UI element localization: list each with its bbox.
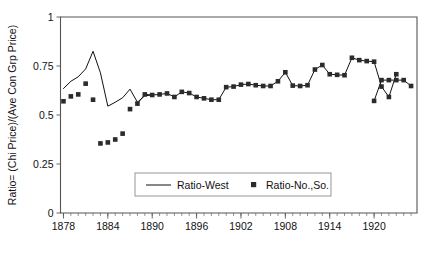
data-point-marker	[387, 78, 392, 83]
data-point-marker	[202, 96, 207, 101]
x-tick-label: 1884	[96, 220, 120, 232]
data-point-marker	[379, 84, 384, 89]
data-point-marker	[113, 137, 118, 142]
data-point-marker	[394, 78, 399, 83]
data-point-marker	[187, 91, 192, 96]
data-point-marker	[224, 85, 229, 90]
data-point-marker	[91, 97, 96, 102]
data-point-marker	[276, 79, 281, 84]
data-point-marker	[98, 141, 103, 146]
data-point-marker	[283, 70, 288, 75]
x-tick-label: 1878	[52, 220, 76, 232]
data-point-marker	[394, 72, 399, 77]
data-point-marker	[379, 78, 384, 83]
x-tick-label: 1902	[229, 220, 253, 232]
data-point-marker	[342, 73, 347, 78]
data-point-marker	[128, 107, 133, 112]
data-point-marker	[120, 131, 125, 136]
data-point-marker	[298, 84, 303, 89]
data-point-marker	[261, 84, 266, 89]
data-point-marker	[320, 63, 325, 68]
y-axis-title: Ratio= (Chi Price)/(Ave Con Grp Price)	[6, 25, 18, 205]
legend-label-ratio-west: Ratio-West	[177, 179, 229, 191]
legend-square-swatch	[251, 182, 256, 187]
data-point-marker	[401, 78, 406, 83]
data-point-marker	[372, 99, 377, 104]
data-point-marker	[231, 84, 236, 89]
y-tick-label: 0.25	[33, 158, 54, 170]
data-point-marker	[150, 93, 155, 98]
x-tick-label: 1914	[318, 220, 342, 232]
x-tick-label: 1920	[362, 220, 386, 232]
legend-label-ratio-no-so: Ratio-No.,So.	[266, 179, 329, 191]
data-point-marker	[364, 59, 369, 64]
chart-canvas: 00.250.50.751 18781884189018961902190819…	[0, 0, 437, 253]
data-point-marker	[83, 81, 88, 86]
data-point-marker	[246, 82, 251, 87]
chart-figure: 00.250.50.751 18781884189018961902190819…	[0, 0, 437, 253]
data-point-marker	[253, 83, 258, 88]
data-point-marker	[268, 84, 273, 89]
data-point-marker	[76, 92, 81, 97]
data-point-marker	[135, 101, 140, 106]
data-point-marker	[409, 84, 414, 89]
data-point-marker	[216, 97, 221, 102]
data-point-marker	[194, 95, 199, 100]
y-tick-label: 0	[48, 207, 54, 219]
x-tick-label: 1890	[141, 220, 165, 232]
data-point-marker	[327, 72, 332, 77]
data-point-marker	[209, 97, 214, 102]
data-point-marker	[335, 73, 340, 78]
data-point-marker	[313, 67, 318, 72]
y-tick-label: 1	[48, 11, 54, 23]
data-point-marker	[61, 99, 66, 104]
y-tick-label: 0.75	[33, 60, 54, 72]
data-point-marker	[239, 82, 244, 87]
data-point-marker	[172, 95, 177, 100]
chart-legend: Ratio-West Ratio-No.,So.	[135, 173, 331, 196]
data-point-marker	[387, 95, 392, 100]
data-point-marker	[180, 90, 185, 95]
data-point-marker	[350, 55, 355, 60]
data-point-marker	[106, 140, 111, 145]
data-point-marker	[143, 92, 148, 97]
data-point-marker	[157, 92, 162, 97]
data-point-marker	[357, 58, 362, 63]
x-tick-label: 1896	[185, 220, 209, 232]
data-point-marker	[69, 94, 74, 99]
y-tick-label: 0.5	[39, 109, 54, 121]
data-point-marker	[305, 83, 310, 88]
x-tick-label: 1908	[274, 220, 298, 232]
data-point-marker	[372, 59, 377, 64]
data-point-marker	[165, 91, 170, 96]
data-point-marker	[290, 83, 295, 88]
